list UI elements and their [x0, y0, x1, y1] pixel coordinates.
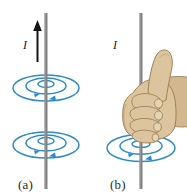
- current-label-b: I: [113, 38, 117, 53]
- panel-a: I (a): [0, 0, 93, 195]
- panel-caption-b: (b): [110, 177, 126, 193]
- field-arrowhead-middle: [128, 153, 134, 157]
- field-arrowhead-outer: [49, 96, 56, 101]
- field-arrowhead-outer: [49, 153, 56, 158]
- knuckle-index: [155, 99, 163, 108]
- field-arrowhead-middle: [34, 150, 40, 154]
- panel-caption-a: (a): [18, 177, 33, 193]
- knuckle-ring: [154, 123, 162, 131]
- field-arrowhead-outer: [145, 156, 152, 161]
- physics-figure-right-hand-rule: I (a): [0, 0, 187, 195]
- knuckle-little: [152, 134, 159, 142]
- current-direction-arrow: [33, 20, 42, 62]
- field-arrowhead-middle: [34, 93, 40, 97]
- panel-a-illustration: [0, 0, 93, 195]
- right-hand-grip: [123, 50, 187, 143]
- knuckle-middle: [155, 111, 163, 120]
- current-arrowhead: [33, 20, 42, 31]
- panel-b: I (b): [93, 0, 186, 195]
- panel-b-illustration: [93, 0, 187, 195]
- current-label-a: I: [23, 38, 27, 53]
